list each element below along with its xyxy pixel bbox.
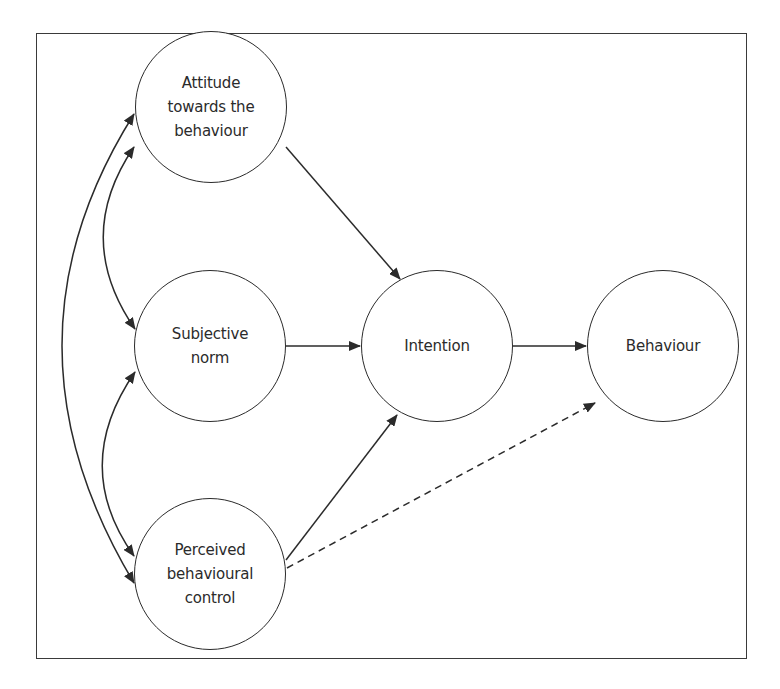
node-subjective-norm-label: Subjective norm [172,322,248,370]
node-intention: Intention [361,270,513,422]
node-attitude: Attitude towards the behaviour [135,31,287,183]
arrow-attitude-pbc-bidirectional [62,114,134,583]
node-subjective-norm: Subjective norm [134,270,286,422]
arrow-pbc-to-behaviour-dashed [287,403,595,568]
arrow-attitude-to-intention [286,147,400,279]
node-attitude-label: Attitude towards the behaviour [168,71,255,143]
node-behaviour: Behaviour [587,270,739,422]
node-intention-label: Intention [404,334,469,358]
arrow-attitude-norm-bidirectional [103,147,135,329]
node-behaviour-label: Behaviour [626,334,700,358]
node-pbc-label: Perceived behavioural control [167,538,254,610]
node-perceived-behavioural-control: Perceived behavioural control [134,498,286,650]
arrow-norm-pbc-bidirectional [102,372,135,556]
